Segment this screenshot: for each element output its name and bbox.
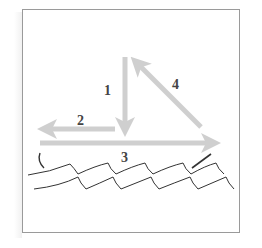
left-arc-stroke (39, 153, 44, 168)
arrow-3-label: 3 (121, 150, 128, 165)
arrow-2-label: 2 (77, 113, 84, 128)
arrow-4 (137, 63, 201, 127)
vector-diagram: 1 2 3 4 (0, 0, 262, 248)
arrow-1-label: 1 (104, 83, 111, 98)
arrow-4-label: 4 (172, 77, 179, 92)
wave-row-2 (34, 177, 234, 189)
